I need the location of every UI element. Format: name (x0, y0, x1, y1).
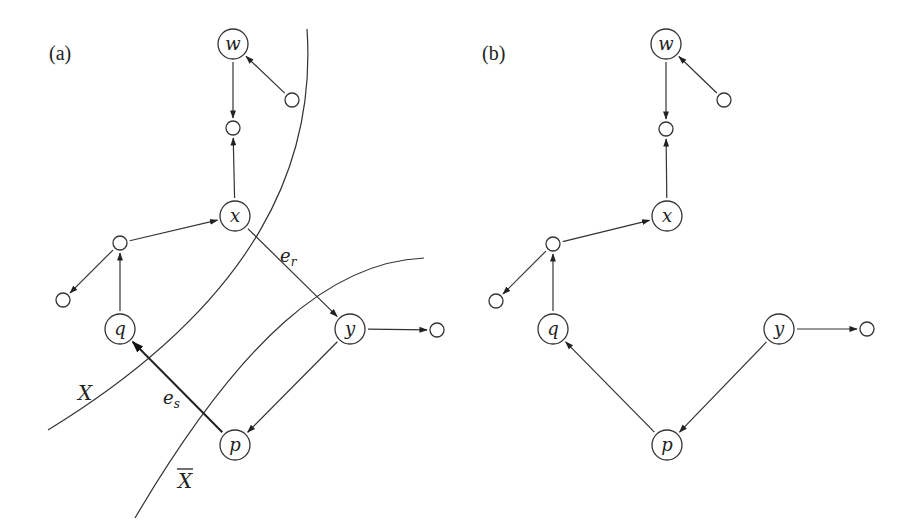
node-circle (285, 93, 299, 107)
node-label: w (225, 33, 241, 54)
panel-a: (a) XX wxqyp eres (48, 29, 444, 518)
node-unlabeled (717, 93, 731, 107)
node-label: y (773, 318, 785, 339)
nodes: wxqyp (56, 29, 444, 460)
edge-n_left-to-x (563, 220, 650, 241)
panel-a-label: (a) (49, 42, 71, 65)
node-circle (546, 237, 560, 251)
node-x: x (652, 201, 682, 231)
nodes: wxqyp (489, 29, 874, 460)
node-p: p (220, 430, 250, 460)
node-label: x (662, 205, 672, 226)
node-unlabeled (285, 93, 299, 107)
node-circle (489, 294, 503, 308)
edge-n_wtop-to-w (246, 56, 285, 93)
edge-x-to-n_mid (666, 139, 667, 198)
node-unlabeled (430, 323, 444, 337)
node-label: p (661, 434, 673, 455)
cut-X-bar-label: X (176, 469, 193, 493)
node-circle (113, 236, 127, 250)
edge-label-e-r: er (280, 245, 298, 269)
edge-label-e-s: es (163, 387, 180, 411)
node-circle (860, 322, 874, 336)
panel-b-label: (b) (482, 42, 505, 65)
edge-p-to-q (566, 342, 655, 432)
diagram-figure: (a) XX wxqyp eres (b) wxqyp (0, 0, 912, 531)
node-unlabeled (226, 121, 240, 135)
node-circle (659, 122, 673, 136)
cut-X-label: X (76, 381, 93, 405)
node-unlabeled (659, 122, 673, 136)
edge-n_wtop-to-w (679, 57, 717, 94)
edge-n_left-to-n_farleft (70, 250, 113, 293)
node-label: p (229, 434, 241, 455)
node-label: y (344, 318, 356, 339)
node-label: w (658, 33, 674, 54)
graph-canvas: (a) XX wxqyp eres (b) wxqyp (0, 0, 912, 531)
node-q: q (538, 314, 568, 344)
edge-e-r (248, 229, 337, 317)
node-unlabeled (489, 294, 503, 308)
node-y: y (335, 314, 365, 344)
node-circle (56, 293, 70, 307)
node-x: x (220, 201, 250, 231)
edge-y-to-p (680, 342, 767, 432)
edge-y-to-n_right (368, 329, 427, 330)
node-y: y (764, 314, 794, 344)
edge-x-to-n_mid (233, 138, 234, 198)
node-q: q (105, 314, 135, 344)
edge-n_left-to-n_farleft (503, 251, 546, 294)
node-unlabeled (56, 293, 70, 307)
node-unlabeled (546, 237, 560, 251)
node-w: w (218, 29, 248, 59)
node-circle (430, 323, 444, 337)
node-label: q (547, 318, 559, 339)
node-unlabeled (113, 236, 127, 250)
node-w: w (651, 29, 681, 59)
edge-y-to-p (248, 342, 338, 432)
node-circle (226, 121, 240, 135)
node-unlabeled (860, 322, 874, 336)
node-label: x (230, 205, 240, 226)
edge-n_left-to-x (130, 220, 218, 241)
panel-b: (b) wxqyp (482, 29, 874, 460)
edge-e-s (133, 342, 223, 432)
node-circle (717, 93, 731, 107)
node-p: p (652, 430, 682, 460)
node-label: q (114, 318, 126, 339)
